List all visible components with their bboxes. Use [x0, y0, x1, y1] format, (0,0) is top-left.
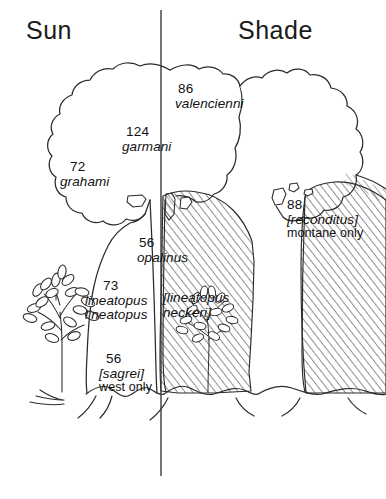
annotation-reconditus-number: 88 — [287, 198, 363, 213]
annotation-reconditus-note: montane only — [287, 227, 363, 241]
annotation-neckeri-subspecies: neckeri] — [163, 306, 229, 321]
annotation-valencienni: 86 valencienni — [175, 82, 244, 111]
annotation-opalinus-species: opalinus — [137, 251, 188, 266]
annotation-grahami-number: 72 — [60, 160, 109, 175]
annotation-sagrei-number: 56 — [99, 352, 152, 367]
annotation-garmani-number: 124 — [122, 125, 171, 140]
anolis-habitat-figure: Sun Shade 86 valencienni 124 garmani 72 … — [0, 0, 386, 499]
annotation-lineatopus-subspecies: lineatopus — [85, 308, 148, 323]
annotation-lineatopus-neckeri: [lineatopus neckeri] — [163, 291, 229, 320]
annotation-sagrei: 56 [sagrei] west only — [99, 352, 152, 395]
annotation-opalinus-number: 56 — [137, 236, 188, 251]
annotation-lineatopus-lineatopus: 73 lineatopus lineatopus — [85, 279, 148, 323]
annotation-grahami-species: grahami — [60, 175, 109, 190]
shade-label: Shade — [238, 16, 313, 45]
annotation-lineatopus-species: lineatopus — [85, 294, 148, 309]
annotation-garmani: 124 garmani — [122, 125, 171, 154]
annotation-sagrei-species: [sagrei] — [99, 367, 152, 382]
figure-artwork — [0, 0, 386, 499]
annotation-neckeri-species: [lineatopus — [163, 291, 229, 306]
annotation-grahami: 72 grahami — [60, 160, 109, 189]
annotation-valencienni-species: valencienni — [175, 97, 244, 112]
annotation-reconditus: 88 [reconditus] montane only — [287, 198, 363, 241]
annotation-reconditus-species: [reconditus] — [287, 213, 363, 228]
annotation-garmani-species: garmani — [122, 140, 171, 155]
sun-label: Sun — [26, 16, 72, 45]
annotation-valencienni-number: 86 — [175, 82, 244, 97]
annotation-opalinus: 56 opalinus — [137, 236, 188, 265]
annotation-lineatopus-number: 73 — [85, 279, 148, 294]
annotation-sagrei-note: west only — [99, 381, 152, 395]
